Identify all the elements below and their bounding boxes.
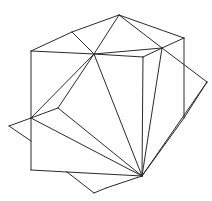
edge-M-N (31, 108, 58, 118)
edge-P-Q (67, 172, 94, 193)
edge-D-H (94, 54, 143, 57)
edge-F-G (162, 38, 184, 48)
edge-B-D (72, 32, 94, 54)
edge-R-K (106, 176, 142, 188)
edge-N-K (58, 108, 142, 176)
cube-line-drawing (0, 0, 212, 201)
edge-M-K (31, 118, 142, 176)
edge-B-A (72, 15, 119, 32)
edge-A-F (119, 15, 162, 48)
edge-D-N (58, 54, 94, 108)
edge-D-M (31, 54, 94, 118)
geometric-figure (0, 0, 212, 201)
edge-Q-R (94, 188, 106, 193)
edge-C-B (31, 32, 72, 51)
edge-F-K (142, 48, 162, 176)
edge-P-K (67, 172, 142, 176)
edge-M-L (9, 118, 31, 126)
edge-A-G (119, 15, 184, 38)
edge-J-K (142, 118, 184, 176)
edge-L-S (9, 126, 31, 141)
edge-D-K (94, 54, 142, 176)
edge-O-P (31, 170, 67, 172)
edge-H-K (142, 57, 143, 176)
edge-C-D (31, 51, 94, 54)
edge-A-D (94, 15, 119, 54)
